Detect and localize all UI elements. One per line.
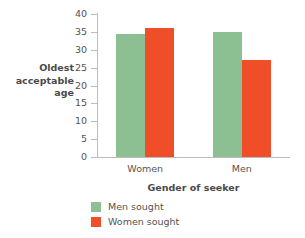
plot-area	[97, 14, 290, 157]
x-axis-label-women: Women	[105, 163, 185, 174]
legend-item: Women sought	[91, 214, 179, 229]
y-axis-tick-label: 35	[65, 27, 87, 37]
chart-legend: Men soughtWomen sought	[91, 199, 179, 229]
y-axis-tick-label: 40	[65, 9, 87, 19]
x-axis-label-men: Men	[202, 163, 282, 174]
y-axis-tick-label: 0	[65, 152, 87, 162]
x-axis-title: Gender of seeker	[97, 182, 290, 193]
legend-swatch-icon	[91, 217, 101, 227]
y-axis-tick-label: 30	[65, 45, 87, 55]
y-axis-tick	[91, 157, 97, 158]
legend-swatch-icon	[91, 202, 101, 212]
legend-label: Women sought	[108, 216, 179, 227]
bar-men-men	[213, 32, 242, 157]
y-axis-tick-label: 15	[65, 98, 87, 108]
bar-chart: Oldest acceptable age 0510152025303540 W…	[0, 0, 305, 238]
bar-men-women	[242, 60, 271, 157]
bar-women-men	[116, 34, 145, 157]
y-axis-tick-label: 5	[65, 134, 87, 144]
bar-women-women	[145, 28, 174, 157]
y-axis-tick-label: 25	[65, 63, 87, 73]
y-axis-tick-label: 20	[65, 81, 87, 91]
y-axis-tick-label: 10	[65, 116, 87, 126]
legend-item: Men sought	[91, 199, 179, 214]
legend-label: Men sought	[108, 201, 164, 212]
